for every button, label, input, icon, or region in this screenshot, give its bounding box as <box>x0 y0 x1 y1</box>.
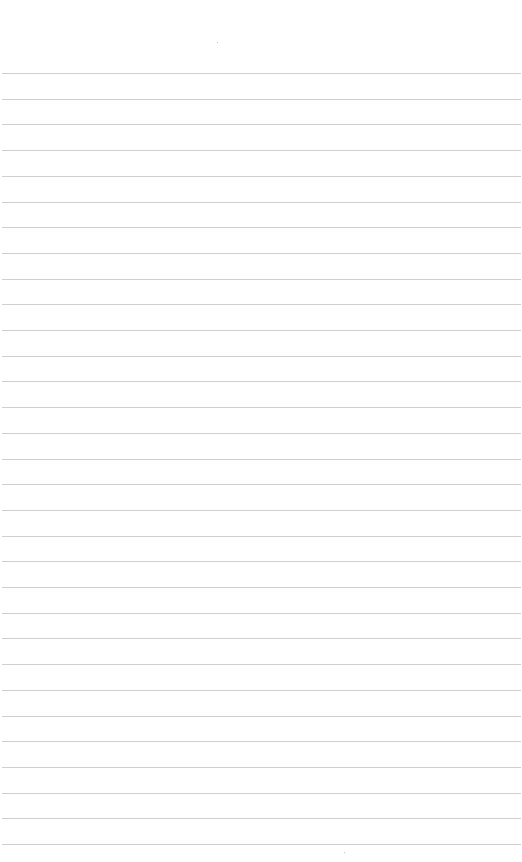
ruled-line <box>2 150 521 151</box>
ruled-line <box>2 73 521 74</box>
ruled-line <box>2 459 521 460</box>
ruled-line <box>2 484 521 485</box>
ruled-line <box>2 818 521 819</box>
ruled-line <box>2 561 521 562</box>
ruled-line <box>2 176 521 177</box>
ruled-line <box>2 381 521 382</box>
ruled-line <box>2 227 521 228</box>
ruled-line <box>2 793 521 794</box>
ruled-line <box>2 330 521 331</box>
ruled-line <box>2 741 521 742</box>
ruled-line <box>2 638 521 639</box>
ruled-line <box>2 844 521 845</box>
ruled-line <box>2 433 521 434</box>
ruled-line <box>2 304 521 305</box>
ruled-line <box>2 407 521 408</box>
ruled-line <box>2 664 521 665</box>
ruled-line <box>2 587 521 588</box>
ruled-line <box>2 510 521 511</box>
ruled-line <box>2 124 521 125</box>
ruled-line <box>2 767 521 768</box>
ruled-line <box>2 99 521 100</box>
ruled-page <box>0 0 522 862</box>
ruled-line <box>2 716 521 717</box>
ruled-line <box>2 253 521 254</box>
ruled-line <box>2 202 521 203</box>
ruled-line <box>2 690 521 691</box>
paper-speck <box>217 42 218 43</box>
ruled-line <box>2 613 521 614</box>
paper-speck <box>344 852 345 853</box>
ruled-line <box>2 279 521 280</box>
ruled-line <box>2 356 521 357</box>
ruled-line <box>2 536 521 537</box>
